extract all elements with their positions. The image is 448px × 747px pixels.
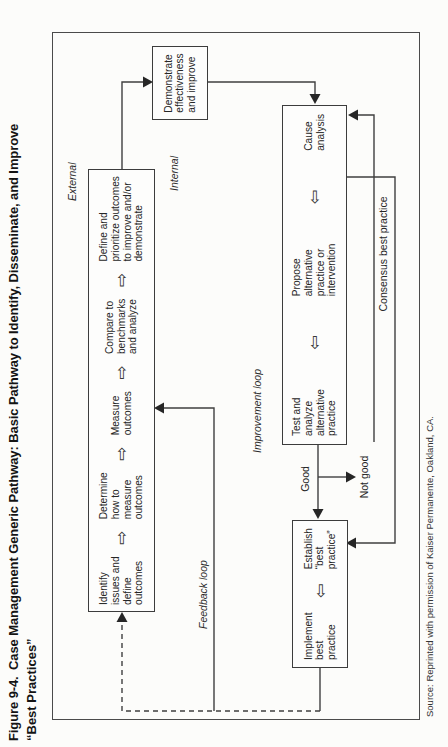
step-establish-best-practice: Establish “best practice” <box>303 528 338 569</box>
step-identify-outcomes: Identify issues and define outcomes <box>98 556 144 605</box>
figure-canvas: Figure 9-4. Case Management Generic Path… <box>0 0 448 747</box>
internal-label: Internal <box>168 156 180 191</box>
hollow-arrow-left-icon: ⇦ <box>306 190 323 204</box>
demonstrate-box: Demonstrate effectiveness and improve <box>152 46 208 120</box>
step-test-analyze: Test and analyze alternative practice <box>291 389 337 436</box>
best-practice-box: Implement best practice ⇦ Establish “bes… <box>292 520 348 668</box>
good-label: Good <box>299 457 311 501</box>
hollow-arrow-left-icon: ⇦ <box>312 584 329 598</box>
step-demonstrate: Demonstrate effectiveness and improve <box>163 53 198 112</box>
improvement-loop-label: Improvement loop <box>251 369 263 453</box>
measurement-pathway-box: Identify issues and define outcomes ⇨ De… <box>88 169 155 612</box>
hollow-arrow-left-icon: ⇦ <box>306 335 323 349</box>
step-measure-outcomes: Measure outcomes <box>110 391 133 435</box>
not-good-label: Not good <box>358 449 370 505</box>
consensus-label: Consensus best practice <box>377 189 389 319</box>
feedback-loop-label: Feedback loop <box>197 560 209 629</box>
step-determine-measures: Determine how to measure outcomes <box>98 472 144 519</box>
step-compare-benchmarks: Compare to benchmarks and analyze <box>104 299 139 355</box>
step-define-prioritize: Define and prioritize outcomes to improv… <box>98 176 144 262</box>
figure-title-line2: “Best Practices” <box>24 638 39 741</box>
hollow-arrow-right-icon: ⇨ <box>113 531 130 545</box>
hollow-arrow-right-icon: ⇨ <box>113 365 130 379</box>
scanned-book-page: Figure 9-4. Case Management Generic Path… <box>0 0 448 747</box>
external-label: External <box>66 162 78 201</box>
source-credit: Source: Reprinted with permission of Kai… <box>424 416 435 717</box>
figure-title: Figure 9-4. Case Management Generic Path… <box>6 3 21 741</box>
hollow-arrow-right-icon: ⇨ <box>113 273 130 287</box>
step-implement-best-practice: Implement best practice <box>303 612 338 660</box>
step-cause-analysis: Cause analysis <box>303 114 326 151</box>
step-propose-alternative: Propose alternative practice or interven… <box>291 244 337 297</box>
improvement-pathway-box: Test and analyze alternative practice ⇦ … <box>282 105 347 445</box>
hollow-arrow-right-icon: ⇨ <box>113 447 130 461</box>
